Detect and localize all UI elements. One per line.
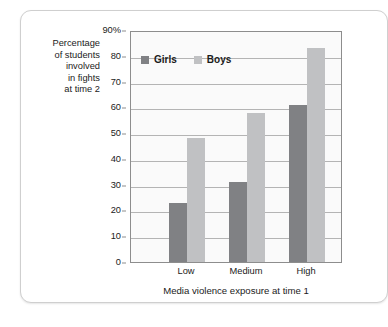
x-axis-title: Media violence exposure at time 1 — [130, 285, 342, 296]
legend-entry-girls: Girls — [141, 55, 177, 65]
y-tick-mark-50 — [122, 134, 126, 135]
y-tick-label-30: 30 — [111, 181, 121, 190]
y-tick-mark-40 — [122, 159, 126, 160]
plot-area — [130, 31, 342, 263]
bar-low-girls — [169, 203, 187, 262]
y-tick-mark-10 — [122, 237, 126, 238]
y-tick-label-40: 40 — [111, 155, 121, 164]
legend-swatch-girls — [141, 56, 149, 64]
y-tick-label-70: 70 — [111, 78, 121, 87]
y-tick-label-20: 20 — [111, 207, 121, 216]
y-tick-label-10: 10 — [111, 233, 121, 242]
y-tick-mark-30 — [122, 185, 126, 186]
y-tick-mark-20 — [122, 211, 126, 212]
x-tick-label-medium: Medium — [229, 267, 262, 276]
chart-legend: GirlsBoys — [141, 55, 231, 65]
y-tick-label-90: 90% — [102, 26, 121, 35]
bar-high-girls — [289, 105, 307, 262]
y-tick-label-50: 50 — [111, 129, 121, 138]
x-tick-label-low: Low — [177, 267, 194, 276]
bars-layer — [131, 32, 341, 262]
legend-label-boys: Boys — [207, 55, 231, 65]
y-tick-mark-90 — [122, 31, 126, 32]
bar-medium-boys — [247, 113, 265, 263]
bar-high-boys — [307, 48, 325, 262]
bar-low-boys — [187, 138, 205, 262]
y-tick-label-0: 0 — [116, 258, 121, 267]
x-axis-tick-labels: LowMediumHigh — [130, 267, 342, 281]
y-tick-mark-0 — [122, 263, 126, 264]
legend-entry-boys: Boys — [194, 55, 231, 65]
y-tick-mark-70 — [122, 82, 126, 83]
x-tick-label-high: High — [296, 267, 315, 276]
y-tick-mark-60 — [122, 108, 126, 109]
y-axis-tick-labels: 0102030405060708090% — [88, 31, 126, 263]
legend-label-girls: Girls — [154, 55, 177, 65]
legend-swatch-boys — [194, 56, 202, 64]
bar-medium-girls — [229, 182, 247, 262]
y-tick-mark-80 — [122, 56, 126, 57]
y-tick-label-60: 60 — [111, 104, 121, 113]
y-tick-label-80: 80 — [111, 52, 121, 61]
